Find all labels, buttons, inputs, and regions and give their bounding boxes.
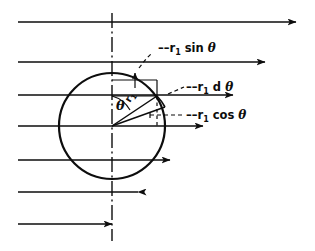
theta-angle-label: θ [116, 98, 125, 113]
cos-label: ––r1 cos θ [186, 108, 246, 124]
figure-container: ––r1 sin θ ––r1 d θ ––r1 cos θ θ r1 [0, 0, 315, 251]
flow-diagram-svg: ––r1 sin θ ––r1 d θ ––r1 cos θ θ r1 [0, 0, 315, 251]
sin-leader-line [139, 53, 152, 68]
dtheta-leader-line [168, 87, 184, 94]
cos-leader-group [150, 112, 184, 118]
sin-dimension-group [112, 73, 157, 96]
sin-leader-group [139, 53, 152, 68]
sin-label: ––r1 sin θ [158, 41, 216, 57]
d-theta-label: ––r1 d θ [186, 80, 233, 96]
